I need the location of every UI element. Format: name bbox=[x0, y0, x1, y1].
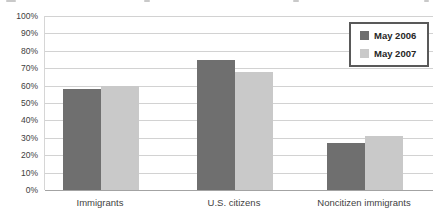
bar-may-2006-u-s-citizens bbox=[197, 60, 235, 191]
legend-label: May 2007 bbox=[374, 48, 416, 59]
bar-may-2006-noncitizen-immigrants bbox=[327, 143, 365, 190]
y-tick-label: 0% bbox=[0, 185, 38, 195]
y-tick-label: 40% bbox=[0, 115, 38, 125]
y-tick-label: 80% bbox=[0, 46, 38, 56]
bar-may-2007-u-s-citizens bbox=[235, 72, 273, 190]
bar-may-2006-immigrants bbox=[63, 89, 101, 190]
cropped-title-remnant bbox=[0, 0, 439, 3]
y-tick-label: 60% bbox=[0, 81, 38, 91]
gridline-70 bbox=[45, 68, 433, 69]
x-tick-label-noncitizen-immigrants: Noncitizen immigrants bbox=[317, 197, 410, 208]
y-tick-label: 100% bbox=[0, 11, 38, 21]
y-tick-label: 30% bbox=[0, 133, 38, 143]
bar-chart-figure: 100%90%80%70%60%50%40%30%20%10%0% Immigr… bbox=[0, 0, 439, 218]
legend-entry: May 2006 bbox=[360, 30, 427, 41]
bar-may-2007-noncitizen-immigrants bbox=[365, 136, 403, 190]
legend: May 2006May 2007 bbox=[349, 22, 429, 67]
y-tick-label: 70% bbox=[0, 63, 38, 73]
x-tick-label-u-s-citizens: U.S. citizens bbox=[208, 197, 261, 208]
bar-may-2007-immigrants bbox=[101, 86, 139, 190]
y-tick-label: 10% bbox=[0, 168, 38, 178]
legend-entry: May 2007 bbox=[360, 48, 427, 59]
y-tick-label: 90% bbox=[0, 28, 38, 38]
x-tick-label-immigrants: Immigrants bbox=[77, 197, 124, 208]
gridline-100 bbox=[45, 16, 433, 17]
legend-label: May 2006 bbox=[374, 30, 416, 41]
y-tick-label: 50% bbox=[0, 98, 38, 108]
legend-swatch-icon bbox=[360, 31, 369, 40]
legend-swatch-icon bbox=[360, 49, 369, 58]
gridline-0 bbox=[45, 190, 433, 191]
y-tick-label: 20% bbox=[0, 150, 38, 160]
